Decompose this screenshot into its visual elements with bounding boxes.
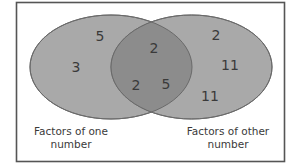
intersection-value-2: 2 [132, 77, 141, 93]
left-value-1: 5 [96, 28, 105, 44]
right-value-1: 2 [212, 27, 221, 43]
left-set-label-line2: number [51, 138, 93, 150]
right-value-3: 11 [201, 88, 219, 104]
right-set-label-line1: Factors of other [187, 125, 270, 137]
intersection-value-3: 5 [162, 76, 171, 92]
left-value-2: 3 [72, 59, 81, 75]
right-value-2: 11 [221, 57, 239, 73]
intersection-value-1: 2 [150, 40, 159, 56]
left-set-label-line1: Factors of one [34, 125, 108, 137]
venn-diagram: 5 3 2 2 5 2 11 11 Factors of one number … [0, 0, 299, 168]
right-set-label-line2: number [208, 138, 250, 150]
